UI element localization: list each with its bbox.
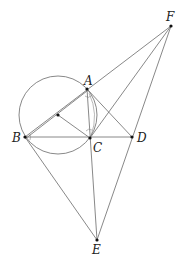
diagram-canvas: A B C D E F: [0, 0, 187, 268]
segment-oc: [58, 115, 90, 138]
point-f: [169, 24, 172, 27]
point-d: [130, 135, 133, 138]
point-c: [88, 136, 91, 139]
geometry-figure: A B C D E F: [0, 0, 187, 268]
point-e: [95, 238, 98, 241]
angle-mark-a: [85, 96, 91, 98]
segment-ae: [87, 89, 97, 240]
label-e: E: [91, 243, 101, 257]
segment-fc: [90, 26, 171, 138]
label-f: F: [165, 10, 175, 24]
point-o-center: [56, 113, 59, 116]
point-b: [23, 135, 26, 138]
label-c: C: [93, 141, 102, 155]
segment-ba: [25, 91, 87, 139]
segment-be: [25, 137, 97, 240]
label-a: A: [83, 74, 93, 88]
segment-bf: [25, 26, 171, 137]
angle-mark-c: [86, 129, 92, 131]
segment-fe: [97, 26, 171, 240]
label-b: B: [11, 131, 21, 145]
label-d: D: [136, 131, 147, 145]
